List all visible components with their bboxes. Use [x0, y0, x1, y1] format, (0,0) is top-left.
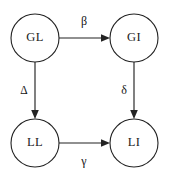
edge-gi-to-li-arrowhead — [130, 110, 138, 119]
diagram-svg: β Δ δ γ GL GI — [0, 0, 173, 181]
node-li[interactable]: LI — [110, 119, 158, 167]
node-ll[interactable]: LL — [11, 119, 59, 167]
node-gl-label: GL — [26, 30, 43, 44]
edge-gl-to-gi-arrowhead — [101, 34, 110, 42]
node-gi-label: GI — [127, 30, 141, 44]
node-li-label: LI — [128, 135, 141, 149]
node-gl[interactable]: GL — [11, 14, 59, 62]
edge-gl-to-ll: Δ — [20, 62, 39, 119]
edge-label-gamma: γ — [80, 154, 87, 168]
node-gi[interactable]: GI — [110, 14, 158, 62]
diagram-canvas: β Δ δ γ GL GI — [0, 0, 173, 181]
edge-ll-to-li: γ — [59, 139, 110, 168]
edge-gi-to-li: δ — [121, 62, 138, 119]
node-ll-label: LL — [27, 135, 43, 149]
edge-gl-to-ll-arrowhead — [31, 110, 39, 119]
edge-gl-to-gi: β — [59, 14, 110, 42]
edge-label-beta: β — [81, 14, 87, 28]
edge-ll-to-li-arrowhead — [101, 139, 110, 147]
edge-label-delta-capital: Δ — [20, 84, 27, 96]
edge-label-delta-lowercase: δ — [121, 83, 127, 97]
